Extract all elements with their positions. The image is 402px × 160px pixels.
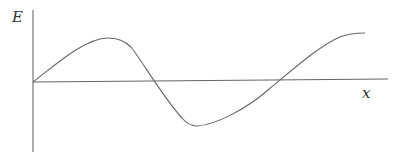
wave-diagram: E x (0, 0, 402, 160)
x-axis-label: x (362, 84, 370, 102)
x-axis (33, 79, 388, 82)
diagram-graphic (0, 0, 402, 160)
y-axis-label: E (12, 8, 23, 26)
